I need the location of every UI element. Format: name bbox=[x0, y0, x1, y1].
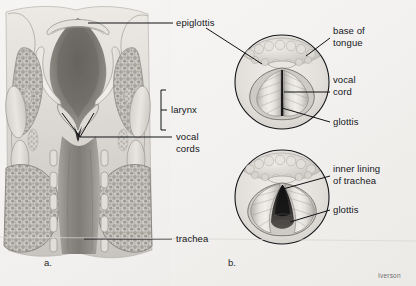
glottis-slit-upper bbox=[281, 70, 283, 116]
label-epiglottis: epiglottis bbox=[176, 17, 215, 29]
label-vocal-cords: vocal cords bbox=[176, 131, 200, 154]
label-trachea: trachea bbox=[176, 233, 208, 245]
anatomy-figure: epiglottis larynx vocal cords trachea ba… bbox=[0, 0, 416, 286]
lower-scope-view bbox=[235, 150, 329, 244]
panel-letter-a: a. bbox=[44, 257, 52, 268]
epiglottis-lower-view bbox=[268, 176, 296, 184]
label-larynx: larynx bbox=[171, 104, 197, 116]
label-glottis-upper: glottis bbox=[333, 116, 359, 128]
panel-a-grain bbox=[2, 4, 154, 260]
panel-letter-b: b. bbox=[228, 257, 236, 268]
panel-a-coronal-section bbox=[2, 4, 154, 260]
epiglottis-upper-view bbox=[268, 61, 296, 69]
label-base-of-tongue: base of tongue bbox=[333, 25, 365, 48]
label-inner-lining-of-trachea: inner lining of trachea bbox=[333, 163, 380, 186]
label-glottis-lower: glottis bbox=[333, 204, 359, 216]
artist-signature: Iverson bbox=[378, 272, 401, 279]
label-vocal-cord: vocal cord bbox=[333, 74, 356, 97]
